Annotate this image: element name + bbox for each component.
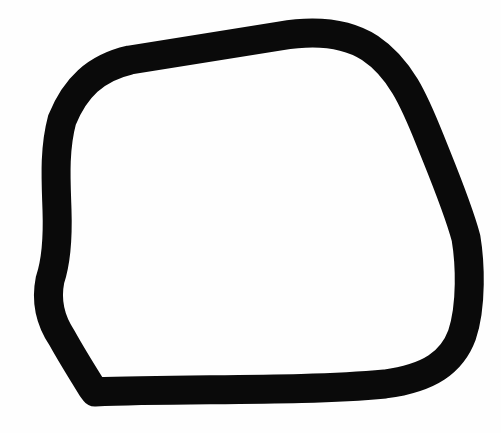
hand-drawn-loop-shape [0,0,501,433]
drawing-canvas [0,0,501,433]
